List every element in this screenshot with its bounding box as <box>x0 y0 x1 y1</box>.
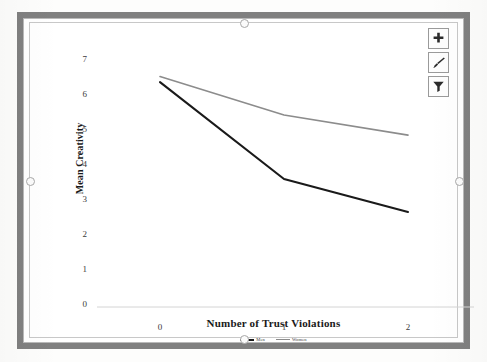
legend-label-women: Women <box>292 337 307 342</box>
chart-elements-button[interactable] <box>428 28 449 49</box>
chart-legend[interactable]: Men Women <box>59 337 487 342</box>
funnel-icon <box>432 80 445 93</box>
x-axis-title: Number of Trust Violations <box>59 317 487 329</box>
chart-tools-toolbar[interactable] <box>428 28 449 97</box>
chart-filters-button[interactable] <box>428 76 449 97</box>
legend-label-men: Men <box>256 337 265 342</box>
paintbrush-icon <box>432 56 446 70</box>
scanned-page: Mean Creativity 7 6 5 4 3 2 1 0 0 1 2 <box>0 0 487 362</box>
selection-handle-middle-left[interactable] <box>26 177 35 186</box>
chart-plot-area <box>59 45 487 361</box>
selection-handle-middle-right[interactable] <box>455 177 464 186</box>
plus-icon <box>432 32 445 45</box>
selection-handle-top-center[interactable] <box>240 19 249 28</box>
chart-styles-button[interactable] <box>428 52 449 73</box>
series-line-women <box>160 77 408 136</box>
legend-swatch-women <box>276 339 290 341</box>
selection-handle-bottom-center[interactable] <box>240 335 249 344</box>
excel-chart-object[interactable]: Mean Creativity 7 6 5 4 3 2 1 0 0 1 2 <box>29 22 458 338</box>
series-line-men <box>160 82 408 212</box>
legend-item-women[interactable]: Women <box>276 337 307 342</box>
plot-wrapper: Mean Creativity 7 6 5 4 3 2 1 0 0 1 2 <box>59 45 487 361</box>
